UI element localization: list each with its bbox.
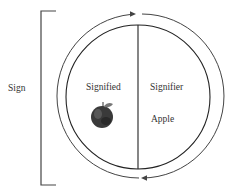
- signifier-label: Signifier: [150, 82, 183, 92]
- sign-label: Sign: [8, 83, 25, 93]
- apple-word-label: Apple: [151, 114, 174, 124]
- sign-bracket: [41, 11, 56, 185]
- outer-arc-left: [57, 14, 139, 178]
- outer-ring: [57, 14, 224, 178]
- signified-label: Signified: [86, 82, 121, 92]
- apple-image: [91, 102, 113, 128]
- sign-diagram: [0, 0, 233, 195]
